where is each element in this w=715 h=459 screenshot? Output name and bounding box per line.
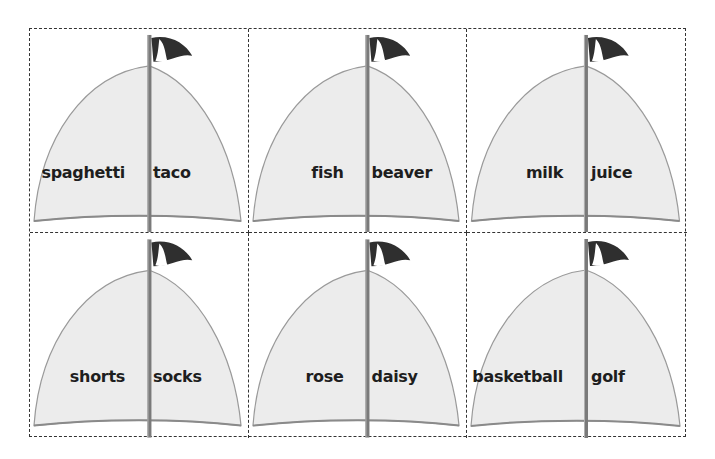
left-word: fish — [311, 163, 343, 182]
right-word: juice — [591, 163, 632, 182]
right-word: daisy — [372, 367, 418, 386]
sailboat-icon — [467, 29, 687, 232]
sailboat-icon — [249, 29, 466, 232]
sailboat-card: fish beaver — [249, 29, 467, 233]
sailboat-icon — [249, 233, 466, 438]
left-word: rose — [305, 367, 343, 386]
left-word: milk — [526, 163, 563, 182]
right-word: taco — [153, 163, 191, 182]
sailboat-card: rose daisy — [249, 233, 467, 438]
right-word: beaver — [372, 163, 432, 182]
left-word: shorts — [70, 367, 125, 386]
left-word: spaghetti — [41, 163, 125, 182]
cut-out-sheet: spaghetti taco fish beaver milk juice — [29, 28, 686, 437]
sailboat-icon — [467, 233, 687, 438]
sailboat-card: shorts socks — [30, 233, 249, 438]
right-word: golf — [591, 367, 625, 386]
sailboat-icon — [30, 233, 248, 438]
left-word: basketball — [472, 367, 563, 386]
sailboat-card: milk juice — [467, 29, 687, 233]
sailboat-card: basketball golf — [467, 233, 687, 438]
right-word: socks — [153, 367, 202, 386]
sailboat-card: spaghetti taco — [30, 29, 249, 233]
sailboat-icon — [30, 29, 248, 232]
